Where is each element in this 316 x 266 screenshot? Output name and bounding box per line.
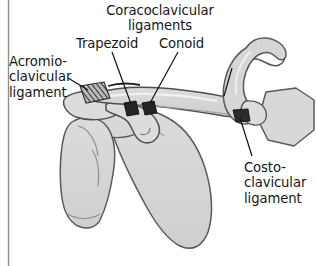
label-conoid: Conoid xyxy=(159,36,204,51)
label-coracoclavicular-ligaments: Coracoclavicular ligaments xyxy=(94,3,226,34)
label-costoclavicular-ligament: Costo- clavicular ligament xyxy=(244,160,306,206)
label-costoclavicular-line2: clavicular xyxy=(244,175,306,190)
label-costoclavicular-line1: Costo- xyxy=(244,160,306,175)
label-acromioclavicular-line1: Acromio- xyxy=(9,54,71,69)
label-costoclavicular-line3: ligament xyxy=(244,191,306,206)
trapezoid-ligament xyxy=(124,101,139,116)
label-acromioclavicular-line3: ligament xyxy=(9,85,71,100)
anatomical-figure: Coracoclavicular ligaments Trapezoid Con… xyxy=(0,0,316,266)
shoulder-girdle-illustration xyxy=(0,0,316,266)
conoid-ligament xyxy=(142,101,157,115)
label-trapezoid: Trapezoid xyxy=(76,36,138,51)
label-coracoclavicular-line2: ligaments xyxy=(94,18,226,33)
costoclavicular-ligament xyxy=(233,109,250,122)
label-acromioclavicular-line2: clavicular xyxy=(9,69,71,84)
humerus-head xyxy=(60,117,114,228)
label-acromioclavicular-ligament: Acromio- clavicular ligament xyxy=(9,54,71,100)
label-coracoclavicular-line1: Coracoclavicular xyxy=(94,3,226,18)
